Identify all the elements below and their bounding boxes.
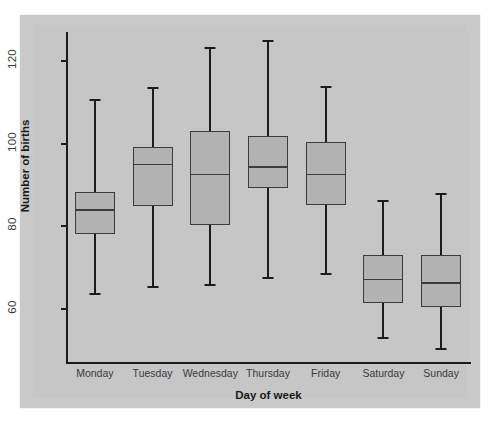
upper-whisker-cap (205, 47, 216, 49)
x-tick-label-thursday: Thursday (246, 367, 290, 379)
lower-whisker-cap (378, 337, 389, 339)
upper-whisker-cap (436, 193, 447, 195)
median-line (75, 209, 115, 211)
median-line (133, 164, 173, 166)
lower-whisker-cap (205, 284, 216, 286)
x-tick-label-friday: Friday (311, 367, 340, 379)
y-tick-mark (61, 60, 68, 62)
y-tick-label: 120 (6, 37, 18, 81)
x-tick-label-saturday: Saturday (362, 367, 404, 379)
x-tick-label-monday: Monday (76, 367, 113, 379)
y-tick-mark (61, 225, 68, 227)
lower-whisker-cap (147, 286, 158, 288)
lower-whisker-cap (89, 293, 100, 295)
y-axis-line (66, 32, 68, 364)
upper-whisker-cap (320, 86, 331, 88)
median-line (248, 166, 288, 168)
median-line (421, 282, 461, 284)
median-line (306, 174, 346, 176)
x-tick-label-tuesday: Tuesday (133, 367, 173, 379)
lower-whisker (325, 205, 327, 276)
x-tick-label-sunday: Sunday (423, 367, 459, 379)
upper-whisker (325, 86, 327, 142)
y-tick-mark (61, 308, 68, 310)
y-tick-label: 60 (6, 285, 18, 329)
median-line (190, 174, 230, 176)
y-tick-mark (61, 143, 68, 145)
lower-whisker-cap (436, 348, 447, 350)
lower-whisker-cap (263, 277, 274, 279)
box-iqr-rect (133, 147, 173, 206)
upper-whisker (152, 87, 154, 146)
lower-whisker (94, 234, 96, 294)
box-iqr-rect (75, 192, 115, 235)
upper-whisker (209, 47, 211, 131)
upper-whisker-cap (263, 40, 274, 42)
x-axis-label: Day of week (66, 389, 471, 401)
x-tick-label-wednesday: Wednesday (183, 367, 238, 379)
upper-whisker (382, 200, 384, 255)
lower-whisker (267, 188, 269, 279)
lower-whisker (152, 206, 154, 288)
y-tick-label: 80 (6, 202, 18, 246)
lower-whisker-cap (320, 273, 331, 275)
lower-whisker (382, 303, 384, 338)
median-line (363, 279, 403, 281)
lower-whisker (440, 307, 442, 350)
upper-whisker-cap (89, 99, 100, 101)
upper-whisker-cap (378, 200, 389, 202)
y-tick-label: 100 (6, 120, 18, 164)
upper-whisker (440, 193, 442, 255)
upper-whisker (94, 99, 96, 191)
box-iqr-rect (248, 136, 288, 187)
upper-whisker (267, 40, 269, 136)
box-iqr-rect (421, 255, 461, 306)
lower-whisker (209, 225, 211, 286)
upper-whisker-cap (147, 87, 158, 89)
box-iqr-rect (190, 131, 230, 225)
y-axis-label: Number of births (19, 106, 31, 226)
x-axis-line (66, 362, 471, 364)
